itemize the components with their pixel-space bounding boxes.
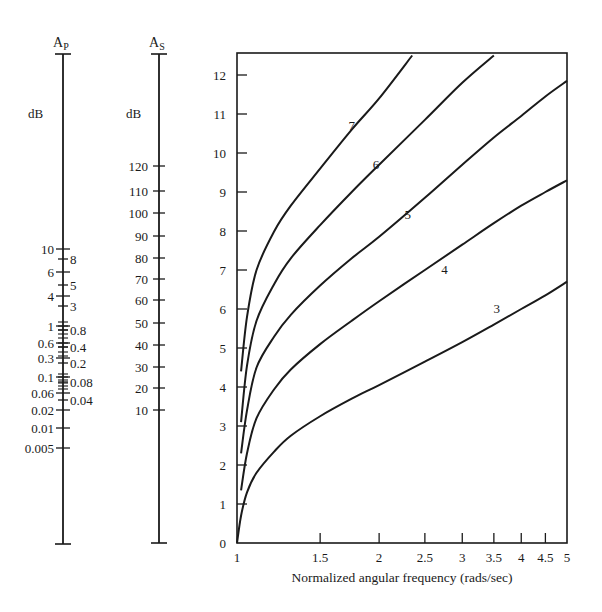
y-tick-label: 2 [220,458,227,473]
curve-label: 4 [441,262,448,277]
y-tick-label: 1 [220,497,227,512]
y-tick-label: 11 [213,107,226,122]
ap-tick-label: 0.08 [70,375,93,390]
y-tick-label: 5 [220,341,227,356]
ap-axis-title: AP [53,35,69,52]
curve-label: 6 [373,157,380,172]
ap-tick-label: 0.04 [70,393,93,408]
as-tick-label: 110 [129,184,148,199]
ap-tick-label: 0.1 [38,370,54,385]
as-tick-label: 20 [135,381,148,396]
ap-tick-label: 0.4 [70,340,87,355]
as-tick-label: 50 [135,316,148,331]
plot-frame [237,53,567,543]
order-curves [237,56,567,544]
x-axis-ticks: 11.522.533.544.55 [234,533,571,565]
as-tick-label: 120 [129,159,149,174]
x-tick-label: 3 [459,550,466,565]
as-tick-label: 100 [129,206,149,221]
curve-order-4 [241,180,567,490]
as-tick-label: 10 [135,403,148,418]
as-attenuation-axis: AS dB 120110100908070605040302010 [126,35,167,543]
ap-tick-label: 0.6 [38,336,55,351]
as-unit-label: dB [126,106,142,121]
y-tick-label: 12 [213,68,226,83]
ap-tick-label: 3 [70,299,77,314]
ap-tick-label: 0.01 [31,421,54,436]
ap-tick-label: 4 [48,289,55,304]
x-tick-label: 2 [376,550,383,565]
as-tick-label: 30 [135,360,148,375]
y-tick-label: 4 [220,380,227,395]
y-tick-label: 3 [220,419,227,434]
x-tick-label: 4.5 [537,550,553,565]
as-axis-title: AS [149,35,165,52]
curve-label: 3 [494,301,501,316]
y-tick-label: 8 [220,224,227,239]
as-tick-label: 60 [135,293,148,308]
x-tick-label: 2.5 [417,550,433,565]
x-tick-label: 1.5 [312,550,328,565]
ap-tick-label: 8 [70,252,77,267]
y-tick-label: 10 [213,146,226,161]
ap-tick-label: 0.2 [70,356,86,371]
x-tick-label: 3.5 [486,550,502,565]
x-axis-label: Normalized angular frequency (rads/sec) [292,570,513,585]
as-tick-label: 80 [135,251,148,266]
ap-attenuation-axis: AP dB 106410.60.30.10.060.020.010.005 85… [25,35,94,544]
ap-tick-label: 0.005 [25,441,54,456]
curve-order-5 [241,81,567,453]
curve-labels: 76543 [348,118,500,316]
ap-tick-label: 5 [70,278,77,293]
as-tick-label: 70 [135,272,148,287]
ap-tick-label: 0.06 [31,386,54,401]
y-tick-label: 0 [220,536,227,551]
as-tick-label: 40 [135,338,148,353]
curve-label: 7 [348,118,355,133]
x-tick-label: 5 [564,550,571,565]
as-tick-label: 90 [135,229,148,244]
ap-tick-label: 0.8 [70,323,86,338]
ap-tick-label: 0.3 [38,351,54,366]
ap-tick-label: 10 [41,242,54,257]
x-tick-label: 1 [234,550,241,565]
y-tick-label: 9 [220,185,227,200]
plot-area: 11.522.533.544.55 0123456789101112 76543… [213,53,570,585]
ap-tick-label: 6 [48,265,55,280]
y-tick-label: 6 [220,302,227,317]
curve-label: 5 [405,207,412,222]
y-tick-label: 7 [220,263,227,278]
ap-unit-label: dB [28,106,44,121]
x-tick-label: 4 [518,550,525,565]
filter-order-nomograph: AP dB 106410.60.30.10.060.020.010.005 85… [0,0,602,612]
ap-tick-label: 0.02 [31,403,54,418]
ap-tick-label: 1 [48,319,55,334]
curve-order-7 [241,56,412,372]
